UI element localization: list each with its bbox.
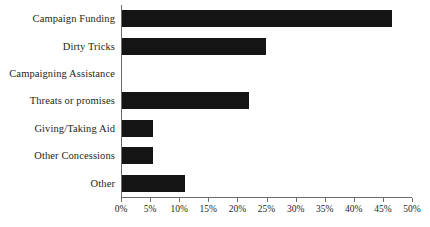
plot-area	[121, 5, 412, 197]
bar-row	[122, 147, 153, 164]
tick-label: 50%	[403, 203, 420, 215]
category-label: Dirty Tricks	[63, 41, 115, 52]
tick-mark	[412, 198, 413, 202]
tick-label: 20%	[229, 203, 246, 215]
category-label-row: Other	[0, 175, 115, 192]
category-label-row: Threats or promises	[0, 92, 115, 109]
category-label: Giving/Taking Aid	[34, 123, 115, 134]
tick-label: 45%	[374, 203, 391, 215]
tick-mark	[179, 198, 180, 202]
tick-label: 10%	[170, 203, 187, 215]
tick-mark	[354, 198, 355, 202]
bar	[122, 10, 392, 27]
bar	[122, 38, 266, 55]
tick-mark	[121, 198, 122, 202]
tick-label: 30%	[287, 203, 304, 215]
tick-label: 40%	[345, 203, 362, 215]
category-label: Campaigning Assistance	[9, 68, 115, 79]
bar	[122, 92, 249, 109]
tick-mark	[296, 198, 297, 202]
tick-mark	[383, 198, 384, 202]
bar-row	[122, 175, 185, 192]
bar	[122, 120, 153, 137]
bar-row	[122, 92, 249, 109]
bar-row	[122, 38, 266, 55]
tick-label: 35%	[316, 203, 333, 215]
category-label-row: Campaigning Assistance	[0, 65, 115, 82]
value-axis-tick-labels: 0%5%10%15%20%25%30%35%40%45%50%	[0, 203, 430, 219]
category-label-row: Campaign Funding	[0, 10, 115, 27]
category-label: Threats or promises	[30, 95, 115, 106]
tick-label: 5%	[144, 203, 157, 215]
category-label-row: Giving/Taking Aid	[0, 120, 115, 137]
category-label: Other	[91, 178, 115, 189]
category-label-row: Other Concessions	[0, 147, 115, 164]
bar-row	[122, 10, 392, 27]
tick-label: 15%	[200, 203, 217, 215]
category-label-row: Dirty Tricks	[0, 38, 115, 55]
category-label: Other Concessions	[34, 150, 115, 161]
bar	[122, 147, 153, 164]
tick-label: 0%	[115, 203, 128, 215]
value-axis-tick-marks	[121, 198, 412, 202]
category-axis-labels: Campaign FundingDirty TricksCampaigning …	[0, 5, 118, 197]
tick-mark	[325, 198, 326, 202]
tick-mark	[267, 198, 268, 202]
bar-row	[122, 120, 153, 137]
tick-mark	[208, 198, 209, 202]
tick-mark	[237, 198, 238, 202]
tick-label: 25%	[258, 203, 275, 215]
tick-mark	[150, 198, 151, 202]
category-label: Campaign Funding	[33, 13, 115, 24]
bar-chart: Campaign FundingDirty TricksCampaigning …	[0, 0, 430, 227]
bar	[122, 175, 185, 192]
